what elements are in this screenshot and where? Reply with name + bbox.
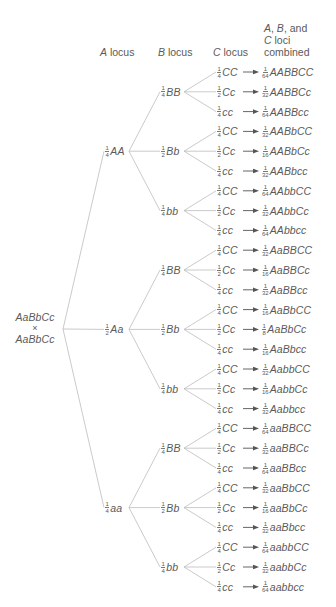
fraction: 164 (262, 105, 269, 118)
fraction: 132 (262, 521, 269, 534)
genotype-label: Cc (222, 205, 235, 217)
fraction-denominator: 64 (262, 548, 269, 554)
fraction-numerator: 1 (105, 145, 109, 152)
header-a-text: locus (107, 46, 134, 58)
fraction-denominator: 64 (262, 469, 269, 475)
fraction-numerator: 1 (217, 442, 221, 449)
c-locus-node: 14cc (217, 461, 233, 475)
branch-line (129, 329, 160, 388)
arrow-icon (243, 446, 259, 451)
fraction: 14 (161, 204, 165, 217)
header-a-locus: A locus (100, 46, 134, 58)
fraction: 14 (161, 442, 165, 455)
fraction-numerator: 1 (217, 165, 221, 172)
combined-genotype: 132AabbCC (262, 362, 310, 376)
fraction: 132 (262, 244, 269, 257)
arrow-icon (243, 268, 259, 273)
header-combined-a: A (264, 22, 271, 34)
header-combined-line3: combined (264, 46, 310, 58)
fraction: 116 (262, 145, 269, 158)
genotype-label: aaBBCC (270, 422, 311, 434)
fraction: 116 (262, 501, 269, 514)
combined-genotype: 164AAbbCC (262, 184, 311, 198)
branch-line (184, 191, 216, 211)
fraction-numerator: 1 (217, 184, 221, 191)
fraction-denominator: 4 (218, 290, 221, 296)
fraction-denominator: 2 (218, 508, 221, 514)
fraction-numerator: 1 (263, 125, 267, 132)
fraction: 164 (262, 184, 269, 197)
fraction-numerator: 1 (217, 363, 221, 370)
fraction-numerator: 1 (217, 323, 221, 330)
header-combined-b: B (277, 22, 284, 34)
fraction: 14 (217, 125, 221, 138)
fraction: 132 (262, 402, 269, 415)
branch-line (184, 448, 216, 468)
fraction: 164 (262, 224, 269, 237)
arrow-icon (243, 169, 259, 174)
fraction: 12 (217, 442, 221, 455)
fraction-numerator: 1 (217, 561, 221, 568)
fraction: 12 (105, 323, 109, 336)
genotype-label: CC (222, 125, 237, 137)
fraction-numerator: 1 (263, 303, 267, 310)
fraction-denominator: 2 (218, 92, 221, 98)
arrow-icon (243, 387, 259, 392)
combined-genotype: 132aaBbCC (262, 481, 310, 495)
fraction: 132 (262, 125, 269, 138)
fraction-numerator: 1 (263, 501, 267, 508)
fraction: 14 (217, 244, 221, 257)
genotype-label: AABbcc (270, 165, 308, 177)
fraction-denominator: 2 (162, 330, 165, 336)
fraction: 14 (217, 224, 221, 237)
fraction-denominator: 4 (218, 587, 221, 593)
a-locus-node: 12Aa (105, 322, 123, 336)
c-locus-node: 12Cc (217, 85, 235, 99)
fraction-denominator: 32 (262, 370, 269, 376)
genotype-label: cc (222, 165, 233, 177)
combined-genotype: 116AaBbCC (262, 303, 311, 317)
branch-line (184, 131, 216, 151)
fraction: 14 (217, 165, 221, 178)
branch-line (184, 428, 216, 448)
c-locus-node: 14cc (217, 342, 233, 356)
arrow-icon (243, 466, 259, 471)
fraction-denominator: 4 (218, 350, 221, 356)
genotype-label: AaBbCc (267, 323, 306, 335)
fraction-denominator: 4 (218, 132, 221, 138)
c-locus-node: 12Cc (217, 263, 235, 277)
fraction-numerator: 1 (263, 184, 267, 191)
fraction-numerator: 1 (161, 561, 165, 568)
c-locus-node: 14cc (217, 164, 233, 178)
fraction-denominator: 2 (218, 330, 221, 336)
genotype-label: aaBbCc (270, 502, 308, 514)
fraction-numerator: 1 (263, 244, 267, 251)
genotype-label: AaBBCc (270, 264, 310, 276)
fraction-denominator: 4 (218, 528, 221, 534)
fraction-denominator: 32 (262, 409, 269, 415)
fraction-denominator: 4 (162, 449, 165, 455)
header-c-locus: C locus (213, 46, 248, 58)
fraction-denominator: 16 (262, 152, 269, 158)
fraction: 116 (262, 382, 269, 395)
genotype-label: Cc (222, 264, 235, 276)
fraction-denominator: 4 (162, 389, 165, 395)
header-combined-line1: A, B, and (264, 22, 310, 34)
combined-genotype: 116AabbCc (262, 382, 308, 396)
fraction: 18 (262, 323, 266, 336)
fraction: 14 (161, 85, 165, 98)
fraction-denominator: 4 (162, 211, 165, 217)
genotype-label: AabbCc (270, 383, 308, 395)
fraction: 14 (217, 363, 221, 376)
fraction-numerator: 1 (263, 105, 267, 112)
fraction-numerator: 1 (217, 402, 221, 409)
fraction: 132 (262, 442, 269, 455)
fraction-denominator: 2 (162, 152, 165, 158)
branch-line (129, 448, 160, 507)
arrow-icon (243, 248, 259, 253)
c-locus-node: 12Cc (217, 322, 235, 336)
combined-genotype: 132AaBBCC (262, 243, 312, 257)
genotype-label: Aabbcc (270, 403, 306, 415)
fraction: 164 (262, 422, 269, 435)
fraction-denominator: 8 (263, 330, 266, 336)
